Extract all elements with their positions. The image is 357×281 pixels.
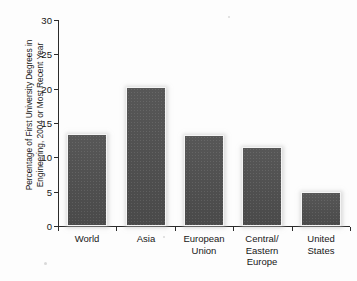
x-axis-category-label-line: States — [285, 245, 357, 257]
y-tick-label: 25 — [41, 49, 52, 60]
scan-speck — [44, 262, 47, 265]
x-tick-mark — [175, 227, 176, 231]
y-tick-label: 15 — [41, 118, 52, 129]
y-tick-mark — [54, 54, 58, 55]
y-axis-line — [58, 20, 59, 227]
bar — [301, 192, 341, 226]
y-tick-mark — [54, 123, 58, 124]
x-tick-mark — [233, 227, 234, 231]
y-axis-title-line-2: Engineering, 2004 or Most Recent Year — [35, 43, 47, 187]
bar-chart-figure: Percentage of First University Degrees i… — [0, 0, 357, 281]
y-axis-title-text: Percentage of First University Degrees i… — [18, 16, 52, 214]
y-tick-mark — [54, 20, 58, 21]
y-tick-mark — [54, 89, 58, 90]
x-axis-category-label-line: Europe — [226, 256, 298, 268]
x-axis-category-label-line: United — [285, 233, 357, 245]
plot-area: 051015202530 — [58, 20, 350, 227]
y-axis-title: Percentage of First University Degrees i… — [0, 0, 40, 231]
bar — [67, 134, 107, 226]
bar — [242, 147, 282, 226]
scan-speck — [228, 16, 230, 18]
x-tick-mark — [350, 227, 351, 231]
y-axis-title-line-1: Percentage of First University Degrees i… — [24, 40, 36, 191]
x-axis-line — [58, 226, 350, 227]
y-tick-label: 0 — [47, 221, 52, 232]
x-tick-mark — [116, 227, 117, 231]
y-tick-mark — [54, 192, 58, 193]
x-tick-mark — [292, 227, 293, 231]
y-tick-label: 10 — [41, 152, 52, 163]
y-tick-mark — [54, 157, 58, 158]
y-tick-label: 5 — [47, 186, 52, 197]
bar — [184, 135, 224, 226]
x-tick-mark — [58, 227, 59, 231]
x-axis-category-label: UnitedStates — [285, 233, 357, 256]
y-tick-label: 30 — [41, 15, 52, 26]
y-tick-label: 20 — [41, 83, 52, 94]
bar — [126, 87, 166, 226]
